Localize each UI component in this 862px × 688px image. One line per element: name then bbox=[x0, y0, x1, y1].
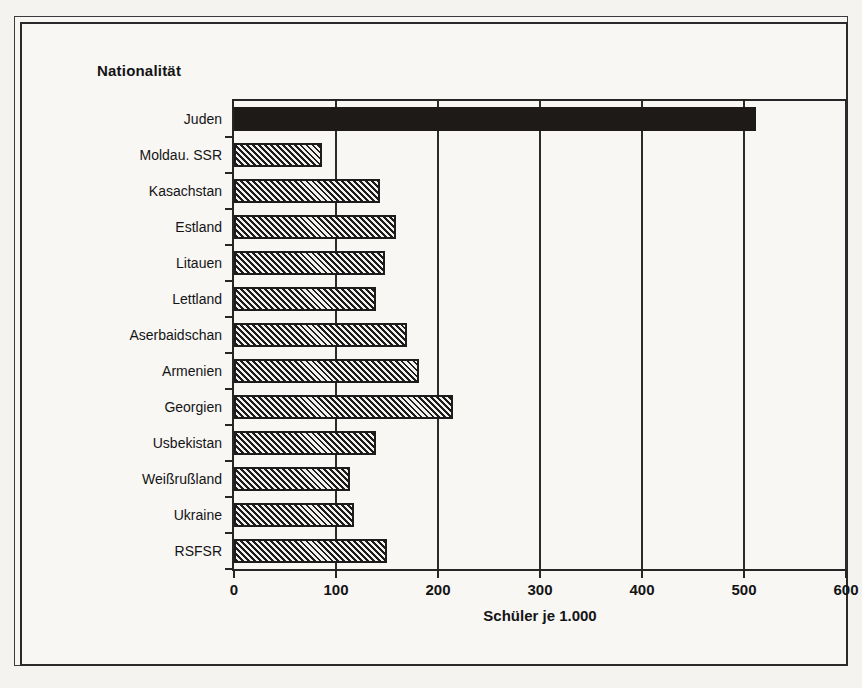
y-tick bbox=[225, 496, 234, 498]
x-tick-label-300: 300 bbox=[527, 581, 552, 598]
y-tick bbox=[225, 352, 234, 354]
bar-row: Weißrußland bbox=[234, 461, 846, 497]
bar-row: Georgien bbox=[234, 389, 846, 425]
bar-row: Litauen bbox=[234, 245, 846, 281]
y-tick bbox=[225, 532, 234, 534]
x-tick-500 bbox=[743, 569, 745, 578]
category-label: Ukraine bbox=[174, 503, 222, 527]
x-tick-label-600: 600 bbox=[833, 581, 858, 598]
bar-litauen bbox=[234, 251, 385, 275]
y-tick bbox=[225, 460, 234, 462]
category-label: Moldau. SSR bbox=[140, 143, 222, 167]
x-tick-400 bbox=[641, 569, 643, 578]
x-tick-label-400: 400 bbox=[629, 581, 654, 598]
y-tick bbox=[225, 316, 234, 318]
bar-row: Usbekistan bbox=[234, 425, 846, 461]
category-label: Armenien bbox=[162, 359, 222, 383]
x-tick-label-500: 500 bbox=[731, 581, 756, 598]
bar-moldau-ssr bbox=[234, 143, 322, 167]
y-tick bbox=[225, 388, 234, 390]
bar-chart: Nationalität Schüler je 1.000 0100200300… bbox=[42, 46, 862, 688]
category-label: RSFSR bbox=[175, 539, 222, 563]
category-label: Litauen bbox=[176, 251, 222, 275]
x-tick-600 bbox=[845, 569, 847, 578]
bar-georgien bbox=[234, 395, 453, 419]
bar-row: Estland bbox=[234, 209, 846, 245]
bar-row: Lettland bbox=[234, 281, 846, 317]
bar-row: Armenien bbox=[234, 353, 846, 389]
y-tick bbox=[225, 172, 234, 174]
y-tick bbox=[225, 568, 234, 570]
bar-aserbaidschan bbox=[234, 323, 407, 347]
bar-rsfsr bbox=[234, 539, 387, 563]
bar-row: Ukraine bbox=[234, 497, 846, 533]
x-tick-300 bbox=[539, 569, 541, 578]
bar-row: Aserbaidschan bbox=[234, 317, 846, 353]
bar-row: RSFSR bbox=[234, 533, 846, 569]
x-tick-100 bbox=[335, 569, 337, 578]
y-tick bbox=[225, 280, 234, 282]
bar-usbekistan bbox=[234, 431, 376, 455]
bar-kasachstan bbox=[234, 179, 380, 203]
category-label: Juden bbox=[184, 107, 222, 131]
y-tick bbox=[225, 424, 234, 426]
bar-estland bbox=[234, 215, 396, 239]
x-tick-0 bbox=[233, 569, 235, 578]
bar-lettland bbox=[234, 287, 376, 311]
category-label: Weißrußland bbox=[142, 467, 222, 491]
bar-juden bbox=[234, 107, 756, 131]
bar-wei-ru-land bbox=[234, 467, 350, 491]
category-label: Lettland bbox=[172, 287, 222, 311]
plot-area: Schüler je 1.000 0100200300400500600Jude… bbox=[232, 99, 846, 571]
x-tick-label-200: 200 bbox=[425, 581, 450, 598]
category-label: Usbekistan bbox=[153, 431, 222, 455]
y-tick bbox=[225, 136, 234, 138]
x-tick-label-0: 0 bbox=[230, 581, 238, 598]
x-tick-200 bbox=[437, 569, 439, 578]
bar-row: Juden bbox=[234, 101, 846, 137]
figure-inner-frame: Nationalität Schüler je 1.000 0100200300… bbox=[20, 22, 848, 666]
bar-row: Kasachstan bbox=[234, 173, 846, 209]
bar-armenien bbox=[234, 359, 419, 383]
bar-row: Moldau. SSR bbox=[234, 137, 846, 173]
category-label: Estland bbox=[175, 215, 222, 239]
category-label: Aserbaidschan bbox=[129, 323, 222, 347]
x-tick-label-100: 100 bbox=[323, 581, 348, 598]
y-tick bbox=[225, 244, 234, 246]
category-label: Georgien bbox=[164, 395, 222, 419]
bar-ukraine bbox=[234, 503, 354, 527]
value-axis-title: Schüler je 1.000 bbox=[483, 607, 596, 624]
category-label: Kasachstan bbox=[149, 179, 222, 203]
category-axis-title: Nationalität bbox=[97, 62, 181, 79]
y-tick bbox=[225, 208, 234, 210]
